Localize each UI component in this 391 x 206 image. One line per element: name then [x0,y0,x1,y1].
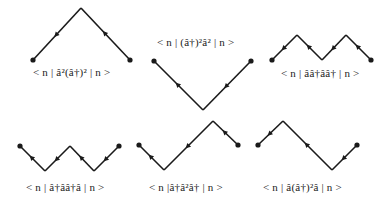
endpoint-dot-icon [354,142,359,147]
diagram-canvas [0,0,391,206]
matrix-element-label-6: < n | â(â†)²â | n > [263,181,342,193]
matrix-element-label-3: < n | ââ†ââ† | n > [281,67,359,79]
endpoint-dot-icon [17,143,22,148]
endpoint-dot-icon [368,57,373,62]
matrix-element-label-2: < n | (â†)²â² | n > [157,36,234,48]
endpoint-dot-icon [269,57,274,62]
matrix-element-label-4: < n | â†ââ†â | n > [26,181,104,193]
matrix-element-label-5: < n |â†â²â† | n > [149,181,223,193]
zigzag-path-6 [255,121,359,170]
endpoint-dot-icon [30,57,35,62]
endpoint-dot-icon [151,58,156,63]
endpoint-dot-icon [116,143,121,148]
matrix-element-label-1: < n | â²(â†)² | n > [33,66,110,78]
zigzag-path-5 [136,121,240,170]
endpoint-dot-icon [136,142,141,147]
zigzag-path-1 [30,8,132,63]
endpoint-dot-icon [235,142,240,147]
endpoint-dot-icon [255,142,260,147]
endpoint-dot-icon [127,57,132,62]
zigzag-path-2 [151,58,253,110]
endpoint-dot-icon [248,58,253,63]
zigzag-path-3 [269,35,373,63]
zigzag-path-4 [17,143,121,171]
